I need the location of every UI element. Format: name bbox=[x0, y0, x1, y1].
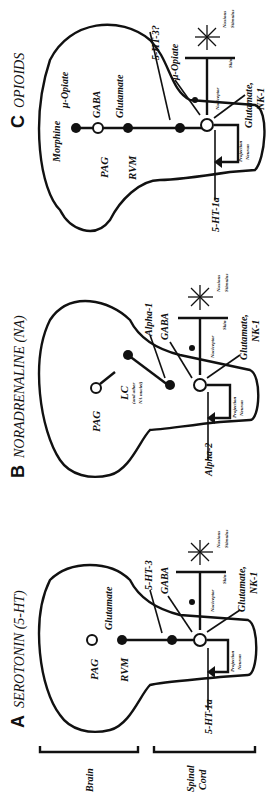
label-glutamate-nk1: Glutamate, bbox=[236, 566, 247, 612]
label-pag: PAG bbox=[88, 659, 100, 680]
panel-a-projection-neuron bbox=[194, 634, 206, 646]
label-pag: PAG bbox=[90, 411, 102, 432]
label-alpha1: Alpha-1 bbox=[143, 303, 154, 337]
panel-b-nociceptor-dot bbox=[189, 345, 195, 351]
panel-b-letter: B bbox=[8, 465, 28, 478]
region-brackets: Brain Spinal Cord bbox=[40, 746, 255, 793]
panel-b-spinal-interneuron bbox=[165, 380, 175, 390]
label-nk1: NK-1 bbox=[255, 88, 266, 111]
panel-a-nociceptor-dot bbox=[189, 599, 195, 605]
label-5ht3: 5-HT-3? bbox=[150, 25, 161, 60]
panel-c-projection-neuron bbox=[201, 119, 213, 131]
label-projection: Projection bbox=[238, 140, 243, 162]
label-stimulus: Stimulus bbox=[230, 10, 235, 28]
spinal-cord-bracket bbox=[154, 746, 255, 752]
label-mu-opiate-top: μ-Opiate bbox=[59, 71, 70, 109]
label-rvm: RVM bbox=[118, 657, 130, 683]
panel-b-line-alpha1 bbox=[150, 335, 165, 378]
label-stimulus: Stimulus bbox=[224, 274, 229, 292]
label-lc-sub2: NA nuclei) bbox=[138, 381, 143, 405]
panel-a-title: SEROTONIN (5-HT) bbox=[12, 590, 28, 708]
panel-a-line-glutamate bbox=[207, 610, 240, 632]
label-neuron: Neuron bbox=[239, 400, 244, 417]
label-noxious: Noxious bbox=[216, 275, 221, 293]
panel-b-noxious-stimulus-icon bbox=[188, 285, 213, 310]
label-noxious: Noxious bbox=[216, 531, 221, 549]
panel-c-spinal-interneuron bbox=[175, 123, 185, 133]
panel-a-serotonin: A SEROTONIN (5-HT) PAG RVM Glutamate 5-H… bbox=[8, 530, 259, 734]
pain-modulation-figure: C OPIOIDS Morphine μ-Opiate GABA bbox=[0, 0, 271, 811]
label-glutamate-nk1: Glutamate, bbox=[243, 82, 254, 128]
label-alpha2: Alpha-2 bbox=[203, 443, 214, 477]
label-nk1: NK-1 bbox=[248, 572, 259, 595]
label-nociceptor: Nociceptor bbox=[210, 335, 215, 359]
panel-c-opioid-neuron bbox=[71, 123, 81, 133]
label-glutamate-top: Glutamate bbox=[103, 586, 114, 630]
panel-c-pag-neuron bbox=[93, 123, 103, 133]
label-neuron: Neuron bbox=[237, 654, 242, 671]
panel-c-projection-path bbox=[214, 125, 238, 162]
label-lc: LC bbox=[118, 385, 130, 401]
panel-a-projection-path bbox=[207, 640, 228, 672]
label-gaba: GABA bbox=[159, 312, 170, 340]
label-brain: Brain bbox=[84, 768, 95, 793]
label-cord: Cord bbox=[197, 768, 208, 790]
panel-b-pag-lc-axon bbox=[100, 372, 115, 384]
panel-b-pag-neuron bbox=[91, 383, 101, 393]
label-5ht1a: 5-HT-1a bbox=[210, 197, 221, 232]
panel-c-title: OPIOIDS bbox=[12, 53, 27, 108]
label-nk1: NK-1 bbox=[250, 320, 261, 343]
panel-b-line-gaba bbox=[170, 342, 192, 378]
label-lc-sub1: (and other bbox=[131, 382, 136, 404]
panel-a-line-gaba bbox=[168, 596, 192, 632]
label-noxious: Noxious bbox=[222, 11, 227, 29]
label-5ht3: 5-HT-3 bbox=[143, 560, 154, 590]
label-gaba-top: GABA bbox=[91, 90, 102, 118]
panel-a-letter: A bbox=[8, 715, 28, 728]
panel-c-opioids: C OPIOIDS Morphine μ-Opiate GABA bbox=[8, 10, 266, 232]
label-skin: Skin bbox=[228, 58, 233, 68]
label-spinal: Spinal bbox=[185, 765, 196, 792]
panel-a-line-5ht3 bbox=[150, 590, 162, 633]
panel-b-projection-neuron bbox=[194, 379, 206, 391]
label-pag: PAG bbox=[98, 157, 110, 178]
panel-c-letter: C bbox=[8, 115, 28, 128]
label-projection: Projection bbox=[232, 396, 237, 418]
label-skin: Skin bbox=[222, 574, 227, 584]
panel-a-noxious-stimulus-icon bbox=[188, 540, 213, 565]
label-neuron: Neuron bbox=[245, 144, 250, 161]
label-projection: Projection bbox=[230, 650, 235, 672]
label-morphine: Morphine bbox=[51, 120, 62, 163]
panel-c-rvm-neuron bbox=[123, 123, 133, 133]
panel-a-pag-neuron bbox=[87, 635, 97, 645]
label-nociceptor: Nociceptor bbox=[210, 589, 215, 613]
label-rvm: RVM bbox=[126, 155, 138, 181]
panel-c-nociceptor-dot bbox=[192, 97, 198, 103]
label-gaba: GABA bbox=[159, 566, 170, 594]
brain-bracket bbox=[40, 746, 138, 752]
label-nociceptor: Nociceptor bbox=[215, 87, 220, 111]
label-mu-opiate-2: μ-Opiate bbox=[169, 43, 180, 81]
label-glutamate-nk1: Glutamate, bbox=[238, 314, 249, 360]
panel-b-noradrenaline: B NORADRENALINE (NA) PAG LC (and other N… bbox=[8, 274, 261, 478]
panel-b-title: NORADRENALINE (NA) bbox=[12, 315, 28, 459]
panel-b-projection-path bbox=[207, 385, 230, 418]
label-skin: Skin bbox=[222, 320, 227, 330]
panel-c-noxious-stimulus-icon bbox=[195, 25, 220, 50]
label-glutamate-top: Glutamate bbox=[114, 74, 125, 118]
label-stimulus: Stimulus bbox=[224, 530, 229, 548]
panel-a-spinal-interneuron bbox=[167, 635, 177, 645]
label-5ht1a: 5-HT-1a bbox=[203, 699, 214, 734]
